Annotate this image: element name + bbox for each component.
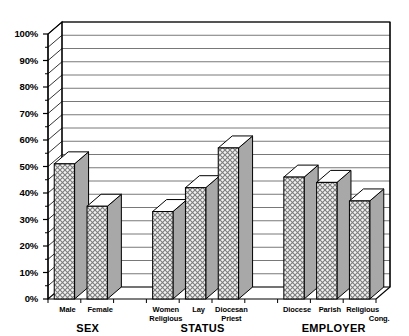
x-tick-label-line1: Religious [346, 305, 379, 314]
bar-diocesan-priest [218, 136, 252, 299]
bar-diocese [284, 165, 318, 299]
group-label-employer: EMPLOYER [274, 322, 394, 334]
y-tick-label-20: 20% [4, 240, 38, 251]
bar-male [54, 152, 88, 299]
bar-women-religious [153, 200, 187, 299]
bar-chart [0, 0, 409, 336]
x-tick-label-line1: Lay [192, 305, 205, 314]
y-tick-label-50: 50% [4, 161, 38, 172]
bar-female [87, 194, 121, 299]
bar-religious-cong [349, 189, 383, 299]
y-tick-label-70: 70% [4, 108, 38, 119]
bar-parish [317, 170, 351, 299]
y-tick-label-0: 0% [4, 293, 38, 304]
y-tick-label-60: 60% [4, 134, 38, 145]
x-tick-label-line1: Diocesan [215, 305, 248, 314]
x-tick-label-diocesan: DiocesanPriest [204, 305, 258, 323]
x-tick-label-religious: ReligiousCong. [336, 305, 390, 323]
x-tick-label-female: Female [73, 305, 127, 314]
x-tick-label-line1: Female [88, 305, 113, 314]
y-tick-label-90: 90% [4, 55, 38, 66]
y-tick-label-30: 30% [4, 214, 38, 225]
y-tick-label-10: 10% [4, 267, 38, 278]
y-tick-label-40: 40% [4, 187, 38, 198]
group-label-sex: SEX [28, 322, 148, 334]
bar-lay [185, 176, 219, 299]
y-tick-label-100: 100% [4, 28, 38, 39]
group-label-status: STATUS [143, 322, 263, 334]
y-tick-label-80: 80% [4, 81, 38, 92]
